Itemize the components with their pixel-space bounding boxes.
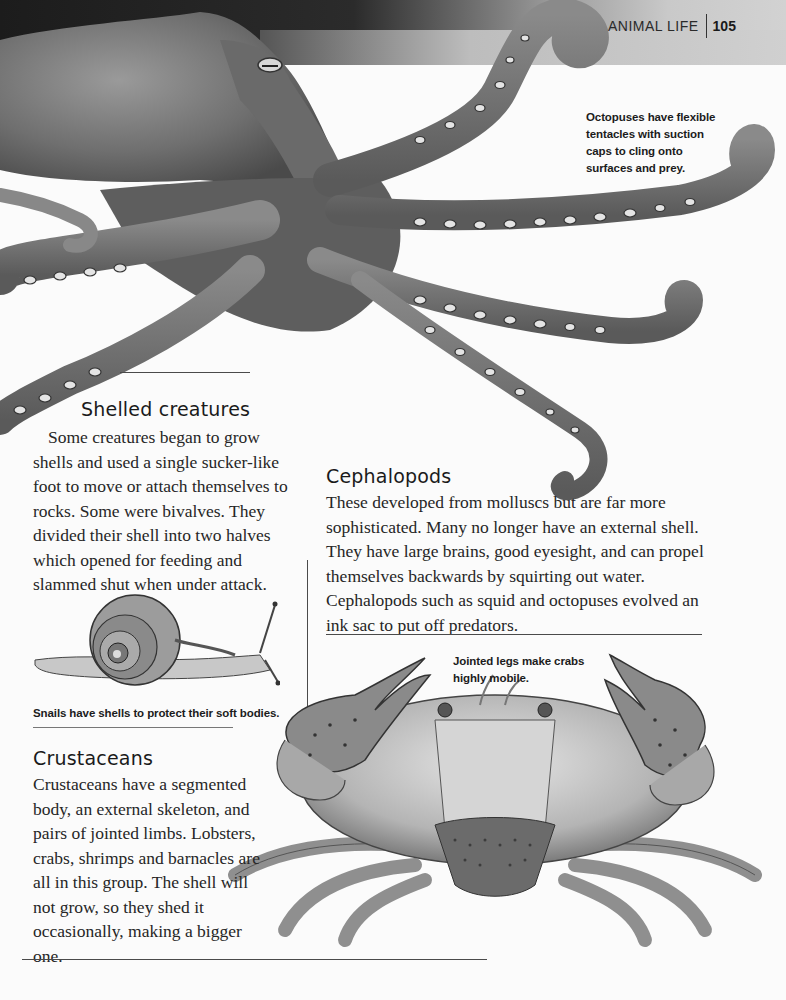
heading-shelled-creatures: Shelled creatures (81, 398, 250, 420)
body-crustaceans: Crustaceans have a segmented body, an ex… (33, 772, 263, 968)
heading-cephalopods: Cephalopods (326, 465, 451, 487)
heading-crustaceans: Crustaceans (33, 747, 153, 769)
page-number: 105 (713, 18, 736, 34)
crab-illustration (215, 650, 775, 950)
body-shelled-creatures: Some creatures began to grow shells and … (33, 425, 303, 597)
running-head: ANIMAL LIFE 105 (608, 14, 736, 38)
body-cephalopods: These developed from molluscs but are fa… (326, 490, 706, 637)
crab-caption: Jointed legs make crabs highly mobile. (453, 653, 613, 687)
snail-caption-rule (33, 727, 233, 728)
bottom-rule (22, 959, 487, 960)
header-divider (706, 14, 707, 38)
section-rule-cephalopods (326, 634, 702, 635)
section-title: ANIMAL LIFE (608, 18, 699, 34)
octopus-caption: Octopuses have flexible tentacles with s… (586, 109, 726, 177)
section-rule-shelled (120, 372, 250, 373)
